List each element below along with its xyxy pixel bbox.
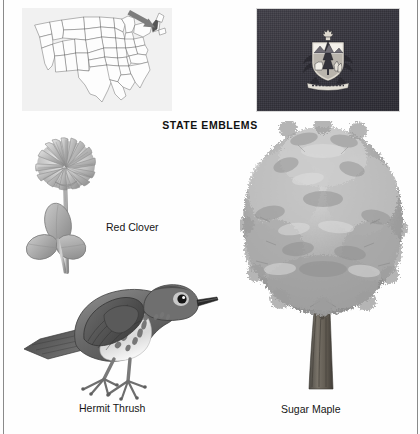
caption-sugar-maple: Sugar Maple — [281, 403, 341, 415]
caption-red-clover: Red Clover — [106, 221, 159, 233]
vermont-coat-of-arms-icon — [299, 27, 357, 93]
page-border-right — [417, 0, 418, 434]
figure-page: STATE EMBLEMS — [0, 0, 420, 434]
vermont-state-flag — [256, 8, 400, 112]
page-border-left — [3, 0, 4, 434]
maple-tree-illustration — [240, 121, 410, 399]
united-states-map — [22, 8, 172, 111]
thrush-bird-illustration — [18, 253, 228, 403]
caption-hermit-thrush: Hermit Thrush — [79, 402, 145, 414]
